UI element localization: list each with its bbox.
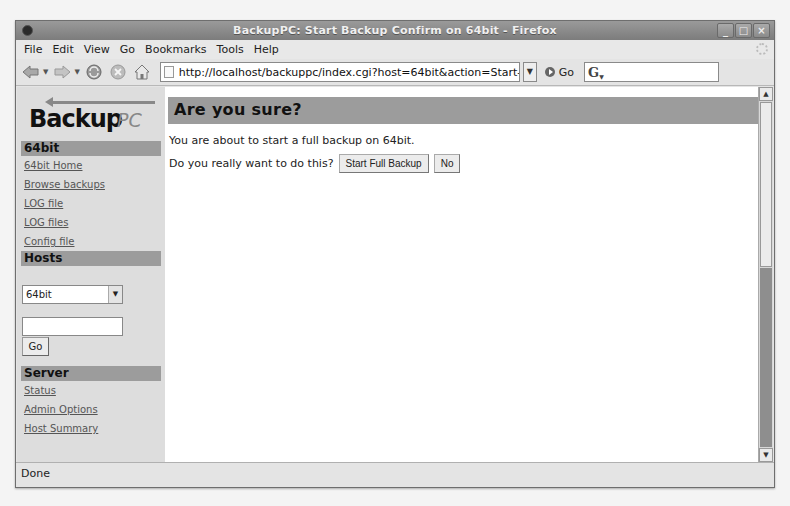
logo-arrow-icon <box>51 101 155 104</box>
back-arrow-icon <box>21 63 41 81</box>
menu-bar: File Edit View Go Bookmarks Tools Help <box>16 40 774 59</box>
confirm-row: Do you really want to do this? Start Ful… <box>168 154 758 173</box>
url-history-dropdown[interactable]: ▼ <box>523 62 537 82</box>
link-config-file[interactable]: Config file <box>21 232 161 251</box>
link-log-files[interactable]: LOG files <box>21 213 161 232</box>
confirm-question: Do you really want to do this? <box>169 157 334 170</box>
forward-dropdown-icon[interactable]: ▼ <box>74 68 79 76</box>
link-host-summary[interactable]: Host Summary <box>21 419 161 438</box>
host-select-value: 64bit <box>26 289 52 300</box>
vertical-scrollbar[interactable]: ▲ ▼ <box>758 87 773 462</box>
logo-text: Backup <box>29 105 122 133</box>
reload-icon <box>84 63 104 81</box>
host-go-button[interactable]: Go <box>22 337 49 356</box>
server-section-title: Server <box>21 366 161 381</box>
window-title: BackupPC: Start Backup Confirm on 64bit … <box>16 24 774 37</box>
go-button[interactable]: Go <box>545 66 574 79</box>
menu-help[interactable]: Help <box>249 43 284 56</box>
url-bar[interactable]: http://localhost/backuppc/index.cgi?host… <box>160 62 520 82</box>
status-text: Done <box>21 467 50 480</box>
back-dropdown-icon[interactable]: ▼ <box>43 68 48 76</box>
search-bar[interactable]: G ▼ <box>584 62 719 82</box>
go-arrow-icon <box>545 67 555 77</box>
link-admin-options[interactable]: Admin Options <box>21 400 161 419</box>
close-button[interactable]: × <box>753 23 770 38</box>
minimize-button[interactable]: _ <box>717 23 734 38</box>
window-controls: _ □ × <box>717 23 770 38</box>
throbber-icon <box>756 43 768 55</box>
link-host-home[interactable]: 64bit Home <box>21 156 161 175</box>
url-input[interactable]: http://localhost/backuppc/index.cgi?host… <box>179 66 519 79</box>
confirm-message: You are about to start a full backup on … <box>168 134 758 147</box>
backuppc-logo[interactable]: Backup PC <box>21 93 161 137</box>
page-title: Are you sure? <box>168 97 758 124</box>
back-button[interactable]: ▼ <box>21 63 48 81</box>
link-browse-backups[interactable]: Browse backups <box>21 175 161 194</box>
host-search-input[interactable] <box>22 317 123 336</box>
home-icon <box>132 63 152 81</box>
logo-suffix: PC <box>117 109 142 131</box>
hosts-section-title: Hosts <box>21 251 161 266</box>
forward-arrow-icon <box>52 63 72 81</box>
page-icon <box>164 66 174 78</box>
reload-button[interactable] <box>84 63 104 81</box>
stop-button[interactable] <box>108 63 128 81</box>
link-log-file[interactable]: LOG file <box>21 194 161 213</box>
link-status[interactable]: Status <box>21 381 161 400</box>
menu-file[interactable]: File <box>19 43 47 56</box>
sidebar: Backup PC 64bit 64bit Home Browse backup… <box>17 87 165 462</box>
menu-bookmarks[interactable]: Bookmarks <box>140 43 211 56</box>
chevron-down-icon[interactable]: ▼ <box>108 286 122 303</box>
scroll-track[interactable] <box>760 268 772 447</box>
scroll-thumb[interactable] <box>760 102 772 267</box>
menu-go[interactable]: Go <box>115 43 140 56</box>
search-engine-dropdown-icon[interactable]: ▼ <box>599 73 604 80</box>
main-panel: Are you sure? You are about to start a f… <box>165 87 758 462</box>
browser-window: BackupPC: Start Backup Confirm on 64bit … <box>15 20 775 488</box>
forward-button[interactable]: ▼ <box>52 63 79 81</box>
page-content: Backup PC 64bit 64bit Home Browse backup… <box>17 87 773 462</box>
host-select[interactable]: 64bit ▼ <box>22 285 123 304</box>
scroll-down-icon[interactable]: ▼ <box>759 448 773 462</box>
scroll-up-icon[interactable]: ▲ <box>759 87 773 101</box>
stop-icon <box>108 63 128 81</box>
status-bar: Done <box>16 462 774 487</box>
navigation-toolbar: ▼ ▼ <box>16 59 774 86</box>
menu-tools[interactable]: Tools <box>212 43 249 56</box>
go-label: Go <box>559 66 574 79</box>
maximize-button[interactable]: □ <box>735 23 752 38</box>
title-bar[interactable]: BackupPC: Start Backup Confirm on 64bit … <box>16 21 774 40</box>
menu-view[interactable]: View <box>79 43 115 56</box>
start-full-backup-button[interactable]: Start Full Backup <box>339 154 429 173</box>
google-search-icon[interactable]: G <box>588 65 599 80</box>
host-section-title: 64bit <box>21 141 161 156</box>
no-button[interactable]: No <box>434 154 461 173</box>
home-button[interactable] <box>132 63 152 81</box>
menu-edit[interactable]: Edit <box>47 43 78 56</box>
